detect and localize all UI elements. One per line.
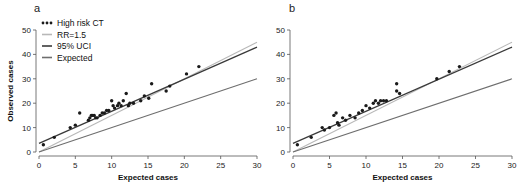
y-axis-title: Observed cases [6,60,15,122]
data-point [168,84,171,87]
data-point [357,111,360,114]
x-tick-label: 10 [107,161,116,170]
data-point [164,89,167,92]
data-point [143,94,146,97]
data-point [42,143,45,146]
data-point [119,104,122,107]
line-rr [293,42,512,152]
legend-points-icon [46,22,49,25]
data-point [382,99,385,102]
data-point [334,111,337,114]
chart-panel-b: b01020304050051015202530Expected cases [276,2,517,182]
data-point [385,99,388,102]
data-point [113,106,116,109]
legend-points-icon [50,22,53,25]
x-tick-label: 20 [180,161,189,170]
data-point [361,109,364,112]
data-point [337,123,340,126]
x-tick-label: 20 [435,161,444,170]
y-tick-label: 10 [276,124,285,133]
data-point [395,89,398,92]
data-point [448,70,451,73]
data-point [341,116,344,119]
data-point [107,109,110,112]
y-tick-label: 0 [27,148,32,157]
x-tick-label: 25 [471,161,480,170]
x-tick-label: 25 [216,161,225,170]
data-point [74,123,77,126]
x-axis-title: Expected cases [372,173,433,182]
data-point [368,106,371,109]
y-tick-label: 30 [276,75,285,84]
data-point [147,97,150,100]
data-point [328,126,331,129]
data-point [364,104,367,107]
data-point [132,102,135,105]
legend-label: Expected [57,53,93,63]
y-tick-label: 30 [22,75,31,84]
data-point [53,136,56,139]
data-point [323,128,326,131]
y-tick-label: 10 [22,124,31,133]
data-point [185,72,188,75]
data-point [348,114,351,117]
data-point [78,111,81,114]
data-point [95,116,98,119]
y-tick-label: 40 [22,50,31,59]
x-tick-label: 5 [327,161,332,170]
legend-label: RR=1.5 [57,30,86,40]
data-point [128,102,131,105]
data-point [458,65,461,68]
x-tick-label: 0 [37,161,42,170]
data-point [310,136,313,139]
x-tick-label: 5 [73,161,78,170]
y-tick-label: 0 [281,148,286,157]
panel-label: a [34,2,41,14]
data-point [435,77,438,80]
y-tick-label: 20 [22,99,31,108]
data-point [353,116,356,119]
data-point [139,99,142,102]
line-uci [293,47,512,143]
x-axis-title: Expected cases [118,173,179,182]
data-point [69,126,72,129]
data-point [150,82,153,85]
legend-label: 95% UCI [57,41,91,51]
data-point [110,99,113,102]
data-point [398,92,401,95]
x-tick-label: 15 [398,161,407,170]
x-tick-label: 10 [362,161,371,170]
data-point [374,99,377,102]
data-point [344,119,347,122]
y-tick-label: 50 [22,26,31,35]
x-tick-label: 15 [144,161,153,170]
line-expected [39,79,257,152]
x-tick-label: 30 [508,161,517,170]
legend: High risk CTRR=1.595% UCIExpected [42,18,104,63]
data-point [197,65,200,68]
legend-points-icon [42,22,45,25]
data-point [395,82,398,85]
y-tick-label: 40 [276,50,285,59]
figure: a01020304050051015202530Expected casesOb… [0,0,527,187]
y-tick-label: 50 [276,26,285,35]
chart-canvas: a01020304050051015202530Expected casesOb… [0,0,527,187]
legend-label: High risk CT [57,18,104,28]
data-point [122,99,125,102]
data-point [125,92,128,95]
x-tick-label: 0 [291,161,296,170]
x-tick-label: 30 [253,161,262,170]
data-point [296,143,299,146]
data-point [379,99,382,102]
line-expected [293,79,512,152]
y-tick-label: 20 [276,99,285,108]
chart-panel-a: a01020304050051015202530Expected casesOb… [6,2,262,182]
panel-label: b [289,2,295,14]
